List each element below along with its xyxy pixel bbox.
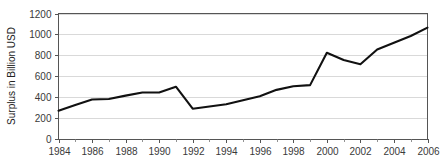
y-axis-tick-label: 1000 xyxy=(29,29,52,40)
chart-canvas: 020040060080010001200 198419861988199019… xyxy=(0,0,442,168)
y-axis-title: Surplus in Billion USD xyxy=(6,27,17,125)
y-axis-tick-label: 800 xyxy=(35,50,52,61)
x-axis-tick-label: 1986 xyxy=(81,146,104,157)
line-chart: 020040060080010001200 198419861988199019… xyxy=(0,0,442,168)
chart-background xyxy=(0,0,442,168)
y-axis-tick-label: 0 xyxy=(46,134,52,145)
x-axis-tick-label: 1996 xyxy=(249,146,272,157)
x-axis-tick-label: 2004 xyxy=(383,146,406,157)
x-axis-tick-label: 1994 xyxy=(215,146,238,157)
x-axis-tick-label: 1990 xyxy=(148,146,171,157)
y-axis-tick-label: 200 xyxy=(35,113,52,124)
y-axis-tick-label: 600 xyxy=(35,71,52,82)
y-axis-tick-label: 1200 xyxy=(29,9,52,20)
x-axis-tick-label: 1984 xyxy=(48,146,71,157)
x-axis-tick-label: 2006 xyxy=(417,146,440,157)
x-axis-tick-label: 1992 xyxy=(182,146,205,157)
x-axis-tick-label: 1988 xyxy=(115,146,138,157)
x-axis-tick-label: 2002 xyxy=(349,146,372,157)
y-axis-tick-label: 400 xyxy=(35,92,52,103)
x-axis-tick-label: 1998 xyxy=(282,146,305,157)
x-axis-tick-label: 2000 xyxy=(316,146,339,157)
